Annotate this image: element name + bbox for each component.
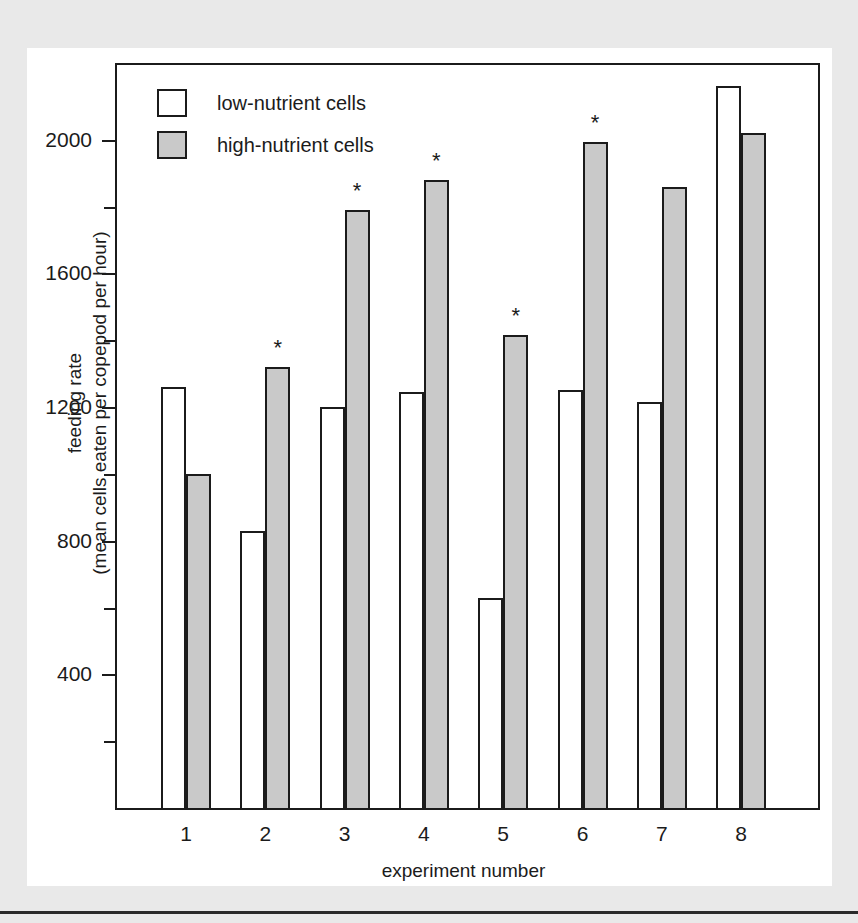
x-tick-label-4: 4 <box>418 822 430 846</box>
y-tick-minor <box>104 474 115 476</box>
x-tick-label-8: 8 <box>735 822 747 846</box>
x-tick-label-1: 1 <box>180 822 192 846</box>
y-tick-major <box>102 407 115 409</box>
y-tick-major <box>102 140 115 142</box>
y-tick-minor <box>104 741 115 743</box>
figure-panel: feeding rate (mean cells eaten per copep… <box>27 48 832 886</box>
page-bottom-rule <box>0 911 858 914</box>
bar-low-nutrient-exp-1 <box>161 387 186 810</box>
x-tick-label-7: 7 <box>656 822 668 846</box>
y-tick-label: 1600 <box>10 261 92 285</box>
bar-low-nutrient-exp-3 <box>320 407 345 810</box>
legend-swatch-high-nutrient-icon <box>157 131 187 159</box>
legend-label-high-nutrient: high-nutrient cells <box>217 134 374 157</box>
y-tick-minor <box>104 608 115 610</box>
significance-asterisk-exp-2: * <box>274 337 283 359</box>
chart-legend: low-nutrient cells high-nutrient cells <box>157 85 374 169</box>
bar-low-nutrient-exp-4 <box>399 392 424 810</box>
chart-plot-area: feeding rate (mean cells eaten per copep… <box>27 48 832 886</box>
y-tick-minor <box>104 207 115 209</box>
significance-asterisk-exp-4: * <box>432 150 441 172</box>
legend-item-high-nutrient-cells: high-nutrient cells <box>157 127 374 163</box>
legend-label-low-nutrient: low-nutrient cells <box>217 92 366 115</box>
bar-high-nutrient-exp-4 <box>424 180 449 810</box>
y-tick-major <box>102 273 115 275</box>
bar-high-nutrient-exp-7 <box>662 187 687 810</box>
x-axis-baseline <box>115 808 820 810</box>
significance-asterisk-exp-6: * <box>591 112 600 134</box>
legend-swatch-low-nutrient-icon <box>157 89 187 117</box>
bar-low-nutrient-exp-7 <box>637 402 662 810</box>
legend-item-low-nutrient-cells: low-nutrient cells <box>157 85 374 121</box>
y-tick-major <box>102 541 115 543</box>
y-tick-label: 1200 <box>10 395 92 419</box>
x-tick-label-5: 5 <box>497 822 509 846</box>
y-tick-label: 2000 <box>10 128 92 152</box>
y-tick-major <box>102 674 115 676</box>
x-tick-label-3: 3 <box>339 822 351 846</box>
x-axis-title: experiment number <box>107 860 820 882</box>
x-tick-label-2: 2 <box>259 822 271 846</box>
significance-asterisk-exp-3: * <box>353 180 362 202</box>
bar-low-nutrient-exp-2 <box>240 531 265 810</box>
y-tick-minor <box>104 340 115 342</box>
plot-frame <box>115 63 820 808</box>
bar-high-nutrient-exp-1 <box>186 474 211 810</box>
bar-high-nutrient-exp-2 <box>265 367 290 810</box>
bar-high-nutrient-exp-3 <box>345 210 370 810</box>
x-tick-label-6: 6 <box>577 822 589 846</box>
y-tick-label: 800 <box>10 529 92 553</box>
y-tick-label: 400 <box>10 662 92 686</box>
bar-high-nutrient-exp-8 <box>741 133 766 810</box>
bar-low-nutrient-exp-5 <box>478 598 503 810</box>
bar-high-nutrient-exp-5 <box>503 335 528 810</box>
bar-low-nutrient-exp-8 <box>716 86 741 810</box>
bar-low-nutrient-exp-6 <box>558 390 583 810</box>
significance-asterisk-exp-5: * <box>511 305 520 327</box>
bar-high-nutrient-exp-6 <box>583 142 608 810</box>
